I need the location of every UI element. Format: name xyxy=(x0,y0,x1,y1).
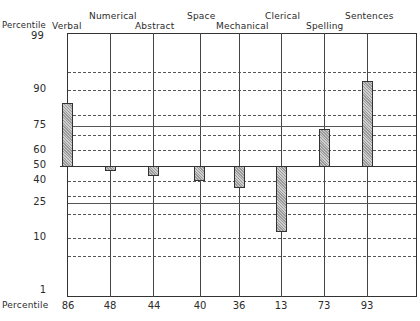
value-spelling: 73 xyxy=(309,300,339,311)
category-label-abstract: Abstract xyxy=(135,21,174,31)
value-space: 40 xyxy=(185,300,215,311)
value-sentences: 93 xyxy=(352,300,382,311)
grid-line xyxy=(68,256,416,257)
y-tick-50: 50 xyxy=(6,159,46,170)
y-tick-1: 1 xyxy=(6,284,46,295)
value-numerical: 48 xyxy=(95,300,125,311)
category-label-clerical: Clerical xyxy=(265,11,300,21)
grid-line xyxy=(68,196,416,197)
value-verbal: 86 xyxy=(53,300,83,311)
category-label-sentences: Sentences xyxy=(345,11,394,21)
bar-abstract xyxy=(148,166,159,176)
category-label-numerical: Numerical xyxy=(89,11,137,21)
bar-space xyxy=(194,166,205,181)
grid-line xyxy=(68,214,416,215)
value-clerical: 13 xyxy=(266,300,296,311)
bar-clerical xyxy=(276,166,287,232)
y-tick-40: 40 xyxy=(6,174,46,185)
y-axis-title: Percentile xyxy=(2,20,46,30)
grid-line xyxy=(68,72,416,73)
y-tick-90: 90 xyxy=(6,83,46,94)
category-label-space: Space xyxy=(187,11,215,21)
bar-mechanical xyxy=(234,166,245,188)
bar-verbal xyxy=(62,103,73,167)
y-tick-75: 75 xyxy=(6,119,46,130)
grid-line xyxy=(68,203,416,204)
value-mechanical: 36 xyxy=(224,300,254,311)
bar-sentences xyxy=(362,81,373,167)
value-abstract: 44 xyxy=(139,300,169,311)
category-label-verbal: Verbal xyxy=(52,21,82,31)
category-label-mechanical: Mechanical xyxy=(216,21,269,31)
category-label-spelling: Spelling xyxy=(306,21,343,31)
y-tick-10: 10 xyxy=(6,231,46,242)
y-tick-25: 25 xyxy=(6,196,46,207)
y-tick-99: 99 xyxy=(31,30,44,41)
y-tick-60: 60 xyxy=(6,144,46,155)
bar-numerical xyxy=(105,166,116,171)
grid-line xyxy=(68,238,416,239)
bar-spelling xyxy=(319,129,330,167)
x-axis-title: Percentile xyxy=(2,300,48,310)
